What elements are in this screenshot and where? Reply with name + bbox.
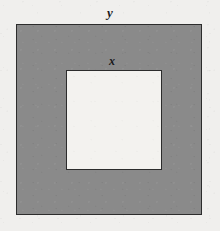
dimension-label-y: y: [100, 6, 120, 19]
figure-canvas: y x: [0, 0, 220, 231]
inner-square: [66, 70, 162, 170]
dimension-label-x: x: [102, 55, 122, 67]
